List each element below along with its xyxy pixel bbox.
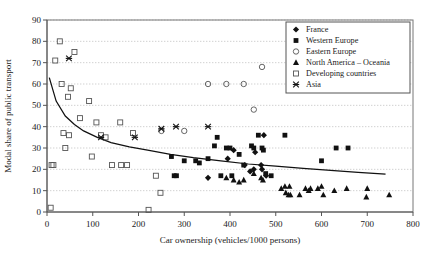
data-point <box>297 192 303 198</box>
data-point <box>173 124 179 130</box>
data-point <box>49 163 54 168</box>
data-point <box>320 192 326 198</box>
data-point <box>169 154 174 159</box>
data-point <box>386 192 392 198</box>
data-point <box>261 148 266 153</box>
y-tick-label-70: 70 <box>32 58 42 68</box>
y-tick-label-90: 90 <box>32 15 42 25</box>
data-point <box>48 205 53 210</box>
data-point <box>319 183 325 189</box>
data-point <box>158 190 163 195</box>
x-tick-label-800: 800 <box>406 219 420 229</box>
series-eastern-europe <box>159 64 265 133</box>
x-tick-label-100: 100 <box>86 219 100 229</box>
y-tick-label-20: 20 <box>32 164 42 174</box>
data-point <box>218 173 223 178</box>
data-point <box>319 158 324 163</box>
data-point <box>215 135 220 140</box>
data-point <box>263 171 268 176</box>
legend-label: Developing countries <box>306 69 376 78</box>
data-point <box>118 120 123 125</box>
series-developing-countries <box>48 39 163 213</box>
data-point <box>72 50 77 55</box>
data-point <box>153 173 158 178</box>
data-point <box>334 146 339 151</box>
x-tick-label-500: 500 <box>269 219 283 229</box>
legend-label: Western Europe <box>306 36 359 45</box>
x-tick-label-0: 0 <box>45 219 50 229</box>
data-point <box>119 163 124 168</box>
x-tick-label-700: 700 <box>361 219 375 229</box>
data-point <box>286 183 292 189</box>
data-point <box>87 99 92 104</box>
data-point <box>283 133 288 138</box>
legend-item-north-america-oceania[interactable]: North America – Oceania <box>293 58 390 67</box>
data-point <box>364 185 370 191</box>
data-point <box>53 58 58 63</box>
series-asia <box>66 56 211 141</box>
data-point <box>89 154 94 159</box>
data-point <box>68 86 73 91</box>
data-point <box>94 120 99 125</box>
scatter-plot: 0102030405060708090010020030040050060070… <box>0 0 437 260</box>
series-north-america-oceania <box>223 170 392 199</box>
y-tick-label-0: 0 <box>37 207 42 217</box>
data-point <box>66 94 71 99</box>
data-point <box>205 124 211 130</box>
data-point <box>212 143 217 148</box>
x-tick-label-300: 300 <box>178 219 192 229</box>
data-point <box>346 146 351 151</box>
x-axis-title: Car ownership (vehicles/1000 persons) <box>160 235 301 245</box>
data-point <box>269 173 274 178</box>
data-point <box>174 173 179 178</box>
data-point <box>251 146 256 151</box>
data-point <box>66 56 72 62</box>
data-point <box>77 116 82 121</box>
y-tick-label-80: 80 <box>32 36 42 46</box>
x-tick-label-400: 400 <box>223 219 237 229</box>
data-point <box>109 163 114 168</box>
data-point <box>206 156 211 161</box>
data-point <box>331 187 337 193</box>
chart-container: 0102030405060708090010020030040050060070… <box>0 0 437 260</box>
y-tick-label-10: 10 <box>32 186 42 196</box>
legend-label: North America – Oceania <box>306 58 390 67</box>
legend-label: Eastern Europe <box>306 47 357 56</box>
x-tick-label-600: 600 <box>315 219 329 229</box>
legend-label: Asia <box>306 80 321 89</box>
data-point <box>294 38 299 43</box>
data-point <box>205 175 211 181</box>
y-axis-title: Modal share of public transport <box>3 59 13 173</box>
data-point <box>259 64 264 69</box>
data-point <box>363 194 369 200</box>
y-tick-label-50: 50 <box>32 100 42 110</box>
data-point <box>256 133 261 138</box>
data-point <box>237 152 242 157</box>
data-point <box>251 107 256 112</box>
data-point <box>182 158 187 163</box>
data-point <box>197 161 202 166</box>
data-point <box>51 163 56 168</box>
y-tick-label-60: 60 <box>32 79 42 89</box>
data-point <box>223 175 229 181</box>
y-tick-label-30: 30 <box>32 143 42 153</box>
data-point <box>125 163 130 168</box>
y-tick-label-40: 40 <box>32 122 42 132</box>
data-point <box>66 133 71 138</box>
data-point <box>228 146 233 151</box>
data-point <box>261 132 267 138</box>
data-point <box>344 185 350 191</box>
series-western-europe <box>169 133 350 178</box>
data-point <box>182 128 187 133</box>
legend-label: France <box>306 25 329 34</box>
x-tick-label-200: 200 <box>132 219 146 229</box>
data-point <box>241 177 247 183</box>
data-point <box>61 131 66 136</box>
legend-item-developing-countries[interactable]: Developing countries <box>294 69 377 78</box>
data-point <box>241 163 246 168</box>
